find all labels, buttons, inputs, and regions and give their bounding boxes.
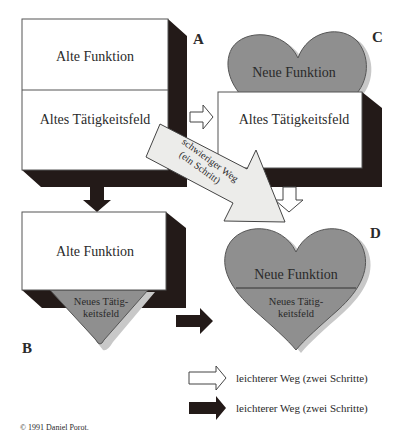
box-a-face [22, 19, 168, 170]
label-c: C [372, 29, 383, 45]
heart-d: Neue Funktion Neues Tätig- keitsfeld [225, 229, 371, 353]
copyright: © 1991 Daniel Porot. [20, 423, 89, 432]
heart-d-bottom-label-1: Neues Tätig- [269, 296, 324, 307]
career-path-diagram: Alte Funktion Altes Tätigkeitsfeld A Neu… [0, 0, 398, 441]
box-a-top-label: Alte Funktion [56, 49, 134, 64]
black-arrow-right-b-d [176, 308, 213, 334]
legend-item-2-label: leichterer Weg (zwei Schritte) [236, 402, 368, 415]
black-arrow-down-a-b [83, 187, 111, 212]
box-c-label: Altes Tätigkeitsfeld [239, 112, 350, 127]
box-a-bottom-label: Altes Tätigkeitsfeld [40, 112, 151, 127]
legend-white-arrow-icon [189, 366, 226, 390]
label-b: B [22, 340, 32, 356]
heart-d-bottom-label-2: keitsfeld [278, 308, 315, 319]
label-a: A [193, 31, 204, 47]
box-b-bottom-label-1: Neues Tätig- [74, 296, 129, 307]
box-b-top-label: Alte Funktion [56, 244, 134, 259]
white-arrow-right-a-c [190, 105, 213, 129]
heart-c-label: Neue Funktion [252, 65, 336, 80]
label-d: D [370, 225, 381, 241]
legend-item-1-label: leichterer Weg (zwei Schritte) [236, 372, 368, 385]
box-b-bottom-label-2: keitsfeld [83, 308, 120, 319]
box-b: Alte Funktion Neues Tätig- keitsfeld [22, 212, 186, 350]
heart-d-top-label: Neue Funktion [254, 267, 338, 282]
box-c-face [218, 92, 362, 168]
legend: leichterer Weg (zwei Schritte) leichtere… [189, 366, 368, 420]
legend-black-arrow-icon [189, 396, 226, 420]
